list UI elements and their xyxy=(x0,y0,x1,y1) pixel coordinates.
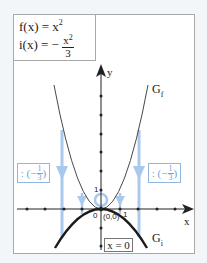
x-axis-label: x xyxy=(184,215,190,227)
y-tick-one-label: 1 xyxy=(94,185,98,194)
origin-coordinates: (0,0) xyxy=(103,212,119,221)
symmetry-axis-label: x = 0 xyxy=(104,238,133,252)
y-axis-label: y xyxy=(107,66,113,78)
x-tick-one-label: 1 xyxy=(123,210,127,219)
origin-point xyxy=(99,207,103,211)
scale-factor-box-left: : (− 13 ) xyxy=(17,163,50,183)
origin-zero-label: 0 xyxy=(93,211,97,220)
formula-i: i(x) = − x23 xyxy=(19,35,74,58)
graph-i-label: Gi xyxy=(152,231,163,246)
formula-box: f(x) = x2 i(x) = − x23 xyxy=(13,14,96,61)
scale-factor-box-right: : (− 13 ) xyxy=(148,163,181,183)
formula-f: f(x) = x2 xyxy=(19,19,63,35)
graph-f-label: Gf xyxy=(152,82,163,97)
